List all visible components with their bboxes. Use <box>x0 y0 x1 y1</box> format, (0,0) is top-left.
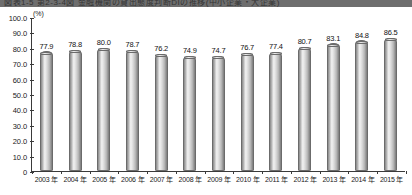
x-axis-tick <box>32 171 33 174</box>
bar: 80.0 <box>97 48 110 171</box>
bar-value-label: 80.0 <box>97 38 111 47</box>
y-axis-tick-label: 70.0 <box>13 60 27 69</box>
figure-title: 図表1-5 第2-3-4図 金融機関の貸出態度判断DIの推移(中小企業・大企業) <box>4 0 280 7</box>
x-axis-tick-label: 2011 年 <box>262 174 291 184</box>
x-axis-tick-label: 2003 年 <box>32 174 61 184</box>
bar: 80.7 <box>298 47 311 171</box>
y-axis-tick-label: 0 <box>23 168 27 177</box>
x-axis-tick <box>205 171 206 174</box>
bar-slot: 84.8 <box>348 18 377 171</box>
x-axis-tick <box>262 171 263 174</box>
bar-value-label: 80.7 <box>298 37 312 46</box>
x-axis-labels: 2003 年2004 年2005 年2006 年2007 年2008 年2009… <box>32 174 406 184</box>
y-axis-tick-label: 20.0 <box>13 137 27 146</box>
bar-series: 77.978.880.078.776.274.974.776.777.480.7… <box>32 18 405 171</box>
bar-slot: 86.5 <box>376 18 405 171</box>
bar: 77.4 <box>269 52 282 171</box>
x-axis-tick-label: 2008 年 <box>176 174 205 184</box>
bar-slot: 78.7 <box>118 18 147 171</box>
y-axis-tick-label: 10.0 <box>13 152 27 161</box>
x-axis-tick-label: 2007 年 <box>147 174 176 184</box>
y-axis-tick-label: 40.0 <box>13 106 27 115</box>
x-axis-tick-label: 2015 年 <box>377 174 406 184</box>
x-axis-tick-label: 2004 年 <box>61 174 90 184</box>
bar-slot: 76.7 <box>233 18 262 171</box>
x-axis-tick <box>406 171 407 174</box>
x-axis-tick <box>176 171 177 174</box>
plot-area: 100.090.080.070.060.050.040.030.020.010.… <box>31 18 405 172</box>
bar-slot: 80.0 <box>89 18 118 171</box>
x-axis-tick-label: 2006 年 <box>118 174 147 184</box>
bar: 77.9 <box>40 51 53 171</box>
bar-value-label: 76.7 <box>240 43 254 52</box>
y-axis-tick-label: 80.0 <box>13 44 27 53</box>
bar-value-label: 86.5 <box>384 28 398 37</box>
x-axis-tick <box>320 171 321 174</box>
x-axis-tick <box>291 171 292 174</box>
bar-value-label: 74.7 <box>212 46 226 55</box>
bar: 78.8 <box>69 50 82 171</box>
bar-value-label: 84.8 <box>355 31 369 40</box>
x-axis-tick <box>233 171 234 174</box>
bar: 83.1 <box>327 43 340 171</box>
bar-slot: 78.8 <box>61 18 90 171</box>
y-axis-tick-label: 60.0 <box>13 75 27 84</box>
x-axis-tick <box>90 171 91 174</box>
bar-value-label: 77.4 <box>269 42 283 51</box>
bar-slot: 74.9 <box>175 18 204 171</box>
x-axis-tick-label: 2009 年 <box>205 174 234 184</box>
bar-slot: 80.7 <box>290 18 319 171</box>
bar-slot: 83.1 <box>319 18 348 171</box>
x-axis-tick <box>118 171 119 174</box>
bar: 76.2 <box>155 54 168 171</box>
x-axis-tick-label: 2005 年 <box>90 174 119 184</box>
y-axis-tick-label: 100.0 <box>9 14 27 23</box>
x-axis-tick-label: 2013 年 <box>320 174 349 184</box>
x-axis-tick-label: 2014 年 <box>348 174 377 184</box>
bar: 86.5 <box>384 38 397 171</box>
chart-figure: 図表1-5 第2-3-4図 金融機関の貸出態度判断DIの推移(中小企業・大企業)… <box>0 0 412 195</box>
bar-slot: 76.2 <box>147 18 176 171</box>
bar: 76.7 <box>241 53 254 171</box>
bar-value-label: 76.2 <box>154 44 168 53</box>
bar: 78.7 <box>126 50 139 171</box>
x-axis-tick <box>348 171 349 174</box>
figure-title-bar: 図表1-5 第2-3-4図 金融機関の貸出態度判断DIの推移(中小企業・大企業) <box>0 0 412 7</box>
bar-slot: 74.7 <box>204 18 233 171</box>
x-axis-tick-label: 2012 年 <box>291 174 320 184</box>
bar: 74.7 <box>212 56 225 171</box>
x-axis-tick-label: 2010 年 <box>233 174 262 184</box>
x-axis-tick <box>61 171 62 174</box>
y-axis-tick-label: 30.0 <box>13 121 27 130</box>
bar: 74.9 <box>183 56 196 171</box>
x-axis-tick <box>147 171 148 174</box>
bar-value-label: 78.8 <box>68 40 82 49</box>
bar-value-label: 78.7 <box>126 40 140 49</box>
bar-slot: 77.9 <box>32 18 61 171</box>
bar: 84.8 <box>355 40 368 171</box>
y-axis-tick-label: 50.0 <box>13 91 27 100</box>
bar-slot: 77.4 <box>262 18 291 171</box>
y-axis-tick-label: 90.0 <box>13 29 27 38</box>
bar-value-label: 74.9 <box>183 46 197 55</box>
bar-value-label: 83.1 <box>326 34 340 43</box>
bar-value-label: 77.9 <box>39 42 53 51</box>
y-axis-unit-label: (%) <box>33 10 44 17</box>
x-axis-tick <box>377 171 378 174</box>
